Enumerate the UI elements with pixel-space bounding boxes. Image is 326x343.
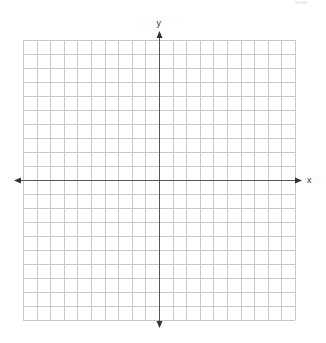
- corner-text: ᴺᴬᴹᴱ: [295, 1, 308, 7]
- x-axis-label: x: [307, 175, 312, 185]
- axes: [14, 31, 302, 328]
- x-axis-right-arrow-icon: [295, 178, 302, 184]
- x-axis-left-arrow-icon: [14, 178, 21, 184]
- coordinate-plane: ᴺᴬᴹᴱ y x: [0, 0, 326, 343]
- y-axis-label: y: [157, 18, 162, 28]
- y-axis-down-arrow-icon: [157, 321, 163, 328]
- grid-svg: [0, 0, 326, 343]
- y-axis-up-arrow-icon: [157, 31, 163, 38]
